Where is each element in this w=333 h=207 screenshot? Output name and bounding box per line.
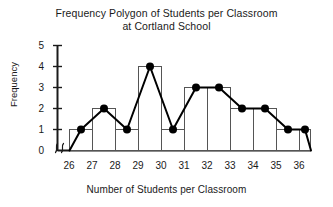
data-point-30 [169, 126, 177, 134]
data-point-35 [284, 126, 292, 134]
frequency-polygon-chart: Frequency Polygon of Students per Classr… [0, 0, 333, 207]
bar-33 [231, 109, 254, 151]
data-point-28 [123, 126, 131, 134]
data-point-27 [100, 105, 108, 113]
data-point-32 [215, 84, 223, 92]
plot-area [0, 0, 333, 207]
bar-29 [139, 67, 162, 151]
data-point-34 [261, 105, 269, 113]
data-point-26 [77, 126, 85, 134]
data-point-31 [192, 84, 200, 92]
bar-32 [208, 88, 231, 151]
data-point-33 [238, 105, 246, 113]
data-point-36 [301, 126, 309, 134]
y-axis [53, 45, 62, 151]
data-point-29 [146, 63, 154, 71]
bar-31 [185, 88, 208, 151]
